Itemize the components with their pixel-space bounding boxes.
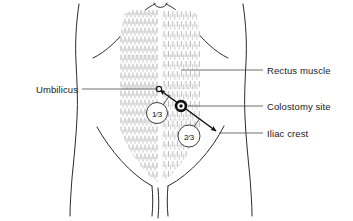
colostomy-marker-center [179,104,182,107]
label-colostomy-site: Colostomy site [267,101,331,112]
torso-right-flank [243,4,252,216]
linea-alba [158,10,162,186]
left-rectus-muscle [120,10,158,186]
anatomical-diagram: 1⁄3 2⁄3 Umbilicus Rectus muscle Colostom… [0,0,353,221]
torso-left-flank [70,4,79,216]
groin-crease-right [167,186,168,216]
diagram-canvas: 1⁄3 2⁄3 Umbilicus Rectus muscle Colostom… [0,0,353,221]
groin-crease-center [158,188,159,218]
fraction-label-upper-third: 1⁄3 [152,110,163,119]
label-umbilicus: Umbilicus [36,84,78,95]
groin-crease-left [152,186,153,216]
label-rectus-muscle: Rectus muscle [267,65,331,76]
label-iliac-crest: Iliac crest [267,128,308,139]
rectus-muscle-group [120,10,200,186]
xiphoid-notch [154,3,167,8]
fraction-label-lower-two-thirds: 2⁄3 [184,133,195,142]
